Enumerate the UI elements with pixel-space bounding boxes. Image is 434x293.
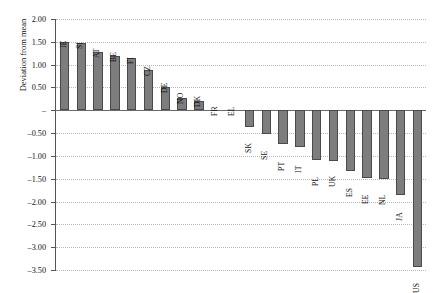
plot-area: 2.001.501.000.50––0.50–1.00–1.50–2.00–2.… [56,19,426,270]
bar-group[interactable]: DE [161,19,170,270]
bar-group[interactable]: PL [312,19,321,270]
y-tick-label: –2.50 [0,224,46,225]
bar-category-label: AT [92,49,101,59]
bar[interactable] [60,42,69,110]
bar-category-label: PL [311,177,320,186]
bar[interactable] [379,110,388,178]
bar-category-label: BE [109,52,118,62]
bar[interactable] [396,110,405,195]
bar-group[interactable]: IE [60,19,69,270]
bar-category-label: CZ [143,66,152,76]
bar[interactable] [295,110,304,147]
bar-category-label: EL [227,107,236,117]
bar-group[interactable]: SI [77,19,86,270]
bar-group[interactable]: EE [362,19,371,270]
bar-category-label: UK [328,176,337,187]
bar-category-label: ES [345,187,354,196]
bar-group[interactable]: US [413,19,422,270]
bar-category-label: DK [193,95,202,106]
bar-group[interactable]: SK [245,19,254,270]
tick-mark [51,270,56,271]
y-tick-label: 0.50 [0,87,46,88]
y-tick-label: –2.00 [0,202,46,203]
bar-group[interactable]: DK [194,19,203,270]
bar-group[interactable]: ES [346,19,355,270]
bar-group[interactable]: PT [278,19,287,270]
bar-group[interactable]: UK [329,19,338,270]
bar[interactable] [262,110,271,134]
bar-category-label: EE [361,194,370,204]
bar[interactable] [312,110,321,160]
gridline [56,270,426,271]
bar-group[interactable]: EL [228,19,237,270]
bar[interactable] [93,52,102,110]
bar-group[interactable]: IT [295,19,304,270]
bar-group[interactable]: CZ [144,19,153,270]
bar-category-label: PT [277,161,286,170]
y-tick-label: 1.00 [0,65,46,66]
bar[interactable] [245,110,254,126]
bar-category-label: JA [395,212,404,221]
bar-group[interactable]: FI [127,19,136,270]
y-tick-label: –1.00 [0,156,46,157]
y-tick-label: –3.50 [0,270,46,271]
y-tick-label: –0.50 [0,133,46,134]
bar-group[interactable]: AT [93,19,102,270]
bar-group[interactable]: JA [396,19,405,270]
bar[interactable] [278,110,287,144]
bar-category-label: IE [59,40,68,48]
bar-series: IESIATBEFICZDENODKFRELSKSEPTITPLUKESEENL… [56,19,426,270]
bar-group[interactable]: FR [211,19,220,270]
bar[interactable] [127,58,136,110]
y-tick-label: 1.50 [0,42,46,43]
bar-category-label: FR [210,107,219,117]
bar[interactable] [110,56,119,110]
bar[interactable] [362,110,371,178]
bar-category-label: FI [126,57,135,64]
bar-category-label: US [412,283,421,293]
bar-category-label: DE [160,83,169,94]
bar[interactable] [413,110,422,267]
bar-category-label: NL [378,194,387,205]
bar-category-label: SE [260,151,269,160]
y-tick-label: –1.50 [0,179,46,180]
bar[interactable] [329,110,338,161]
bar-category-label: IT [294,165,303,173]
bar-category-label: SK [244,143,253,153]
y-tick-label: –3.00 [0,247,46,248]
y-tick-label: – [0,110,46,111]
bar-category-label: SI [75,42,84,49]
bar[interactable] [77,43,86,111]
y-tick-label: 2.00 [0,19,46,20]
bar-group[interactable]: NO [177,19,186,270]
bar-group[interactable]: NL [379,19,388,270]
bar[interactable] [346,110,355,170]
bar[interactable] [144,70,153,110]
bar-group[interactable]: SE [262,19,271,270]
bar-category-label: NO [176,93,185,104]
bar-group[interactable]: BE [110,19,119,270]
